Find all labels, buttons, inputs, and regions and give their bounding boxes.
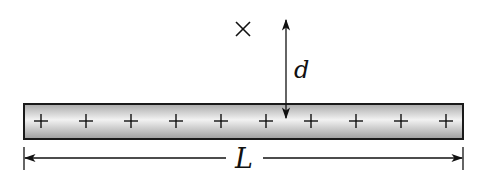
- charged-rod-diagram: d L: [0, 0, 485, 181]
- length-label: L: [234, 143, 253, 174]
- distance-label: d: [294, 56, 309, 84]
- field-point-marker-icon: [236, 22, 250, 36]
